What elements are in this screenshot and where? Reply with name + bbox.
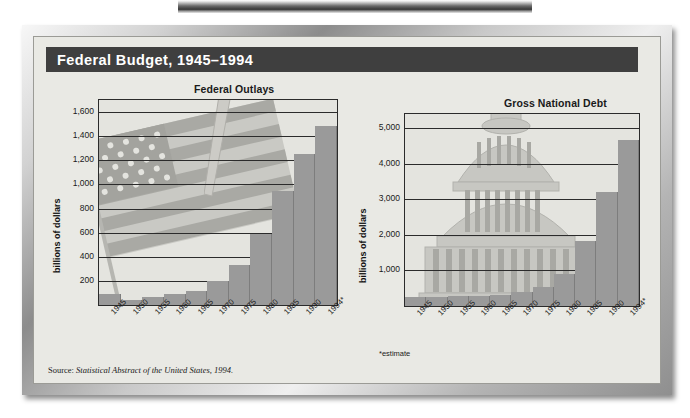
chart-left-title: Federal Outlays — [194, 83, 274, 95]
bar — [315, 126, 337, 305]
y-axis-tick-label: 4,000 — [352, 158, 400, 168]
figure-title-bar: Federal Budget, 1945–1994 — [46, 47, 638, 72]
source-note: Source: Statistical Abstract of the Unit… — [48, 365, 233, 375]
estimate-footnote: *estimate — [379, 349, 410, 358]
y-axis-tick-label: 1,600 — [46, 106, 94, 116]
gridline — [99, 112, 337, 113]
figure-frame: Federal Budget, 1945–1994 Federal Outlay… — [22, 25, 672, 395]
bar — [575, 241, 596, 306]
chart-right-plot-area — [404, 113, 640, 307]
chart-left-plot-area — [98, 99, 338, 306]
y-axis-tick-label: 5,000 — [352, 122, 400, 132]
gridline — [99, 136, 337, 137]
y-axis-tick-label: 400 — [46, 251, 94, 261]
bar — [272, 191, 294, 305]
gridline — [405, 164, 639, 165]
y-axis-tick-label: 200 — [46, 275, 94, 285]
y-axis-tick-label: 1,200 — [46, 154, 94, 164]
top-page-strip — [178, 0, 532, 13]
page-title: Federal Budget, 1945–1994 — [46, 52, 253, 68]
chart-gross-national-debt: Gross National Debt billions of dollars — [352, 97, 652, 375]
source-prefix: Source: — [48, 365, 76, 375]
y-axis-tick-label: 800 — [46, 203, 94, 213]
bar — [294, 154, 316, 305]
bar — [596, 192, 617, 306]
bar — [618, 140, 639, 306]
figure-panel: Federal Budget, 1945–1994 Federal Outlay… — [33, 36, 661, 384]
chart-right-title: Gross National Debt — [504, 97, 607, 109]
y-axis-tick-label: 1,000 — [352, 264, 400, 274]
y-axis-tick-label: 2,000 — [352, 229, 400, 239]
source-title: Statistical Abstract of the United State… — [76, 365, 233, 375]
y-axis-tick-label: 1,400 — [46, 130, 94, 140]
y-axis-tick-label: 600 — [46, 227, 94, 237]
chart-federal-outlays: Federal Outlays billions of dollars — [46, 83, 346, 373]
gridline — [405, 128, 639, 129]
bar — [250, 234, 272, 305]
y-axis-tick-label: 3,000 — [352, 193, 400, 203]
y-axis-tick-label: 1,000 — [46, 178, 94, 188]
